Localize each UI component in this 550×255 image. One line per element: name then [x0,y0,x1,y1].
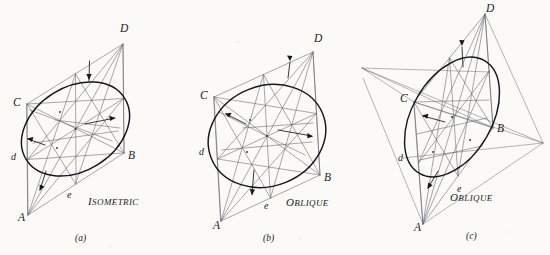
technical-drawing [0,0,550,255]
figure-a-caption-rest: SOMETRIC [92,197,139,207]
figure-sheet: A B C D d e ISOMETRIC (a) A B C D d e OB… [0,0,550,255]
figure-c-vertex-D: D [486,2,494,14]
figure-a-caption: ISOMETRIC [88,195,139,207]
figure-c-vertex-B: B [497,122,504,134]
figure-b-vertex-e: e [264,200,268,211]
figure-a-vertex-e: e [67,189,71,200]
figure-a-vertex-d: d [11,151,16,162]
figure-b-vertex-D: D [314,32,322,44]
figure-b-caption-rest: BLIQUE [294,198,328,208]
figure-b-vertex-d: d [199,146,204,157]
figure-a-number: (a) [75,233,86,243]
figure-a-vertex-A: A [18,211,25,223]
figure-b-vertex-C: C [200,89,208,101]
figure-c-number: (c) [466,231,477,241]
figure-a-vertex-B: B [128,149,135,161]
figure-b-number: (b) [263,233,274,243]
figure-b-vertex-B: B [324,171,331,183]
figure-c-arrows [422,40,465,189]
figure-c-vertex-C: C [400,92,408,104]
figure-a-construction [4,44,147,215]
figure-c-caption-rest: BLIQUE [458,193,492,203]
figure-b-vertex-A: A [213,219,220,231]
figure-c-vertex-A: A [414,221,421,233]
figure-c-caption: OBLIQUE [450,191,493,203]
figure-b-caption: OBLIQUE [286,196,329,208]
figure-a-vertex-C: C [13,96,21,108]
figure-c-vertex-d: d [398,152,403,163]
figure-a-vertex-D: D [120,22,128,34]
